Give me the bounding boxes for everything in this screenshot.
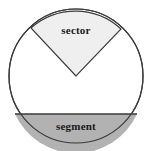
sector-label: sector xyxy=(0,25,152,36)
segment-label: segment xyxy=(0,121,152,132)
circle-diagram: sector segment xyxy=(0,0,152,151)
